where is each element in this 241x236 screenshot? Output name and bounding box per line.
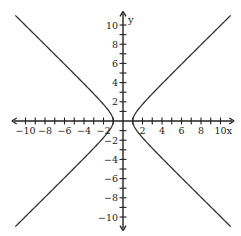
- y-tick-label: −10: [98, 212, 118, 223]
- y-tick-label: 8: [112, 39, 118, 50]
- x-tick-label: 10: [214, 125, 226, 136]
- x-tick-label: 8: [198, 125, 204, 136]
- y-tick-label: 4: [112, 77, 118, 88]
- x-tick-label: −8: [38, 125, 52, 136]
- x-tick-label: −10: [15, 125, 35, 136]
- y-tick-label: 10: [106, 20, 118, 31]
- hyperbola-plot: −10−8−6−4−2246810−10−8−6−4−2246810 x y: [0, 0, 241, 236]
- x-axis-label: x: [227, 125, 233, 136]
- y-tick-label: 2: [112, 96, 118, 107]
- y-tick-label: −8: [104, 192, 118, 203]
- y-tick-label: −6: [104, 173, 118, 184]
- y-tick-label: −4: [104, 154, 118, 165]
- x-tick-label: −6: [57, 125, 71, 136]
- y-tick-label: −2: [104, 135, 118, 146]
- x-tick-label: 2: [139, 125, 145, 136]
- y-axis-label: y: [127, 14, 134, 25]
- x-tick-label: 4: [159, 125, 165, 136]
- x-tick-label: −4: [77, 125, 91, 136]
- x-tick-label: 6: [178, 125, 184, 136]
- y-tick-label: 6: [112, 58, 118, 69]
